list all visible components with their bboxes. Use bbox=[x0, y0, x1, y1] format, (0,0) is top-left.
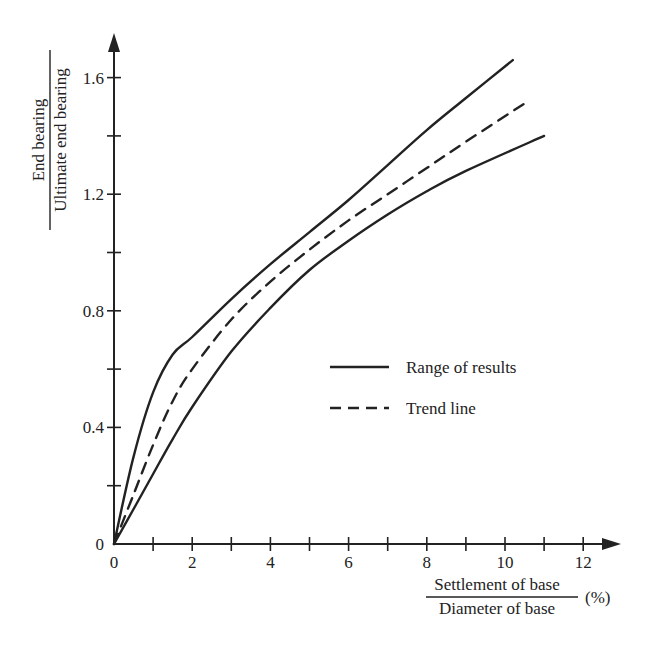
legend-label-trend: Trend line bbox=[406, 399, 476, 418]
x-axis-title: Settlement of base Diameter of base (%) bbox=[426, 575, 610, 618]
x-axis-title-denominator: Diameter of base bbox=[439, 599, 555, 618]
x-axis-title-numerator: Settlement of base bbox=[434, 575, 560, 594]
x-tick-label: 0 bbox=[110, 553, 119, 572]
y-axis-title-denominator: Ultimate end bearing bbox=[51, 68, 70, 212]
range-lower-line bbox=[114, 136, 544, 544]
y-tick-labels: 00.40.81.21.6 bbox=[83, 69, 105, 554]
y-axis-arrow-icon bbox=[108, 33, 120, 52]
x-tick-label: 4 bbox=[266, 553, 275, 572]
x-axis-arrow-icon bbox=[602, 538, 621, 550]
y-tick-label: 0 bbox=[96, 535, 105, 554]
legend-label-range: Range of results bbox=[406, 358, 516, 377]
chart: 024681012 00.40.81.21.6 Range of results… bbox=[0, 0, 648, 645]
x-tick-label: 2 bbox=[188, 553, 197, 572]
y-tick-label: 1.6 bbox=[83, 69, 104, 88]
x-axis-title-unit: (%) bbox=[585, 588, 610, 607]
trend-line bbox=[114, 101, 529, 544]
y-axis-title: End bearing Ultimate end bearing bbox=[29, 50, 70, 230]
legend: Range of results Trend line bbox=[330, 358, 516, 418]
x-tick-label: 8 bbox=[423, 553, 432, 572]
y-tick-label: 0.8 bbox=[83, 302, 104, 321]
x-tick-label: 10 bbox=[497, 553, 514, 572]
axes bbox=[114, 42, 610, 544]
series-layer bbox=[114, 60, 544, 544]
y-tick-label: 0.4 bbox=[83, 418, 105, 437]
y-tick-label: 1.2 bbox=[83, 185, 104, 204]
range-upper-line bbox=[114, 60, 513, 544]
x-tick-label: 6 bbox=[344, 553, 353, 572]
x-tick-label: 12 bbox=[575, 553, 592, 572]
x-tick-labels: 024681012 bbox=[110, 553, 592, 572]
y-axis-title-numerator: End bearing bbox=[29, 98, 48, 181]
